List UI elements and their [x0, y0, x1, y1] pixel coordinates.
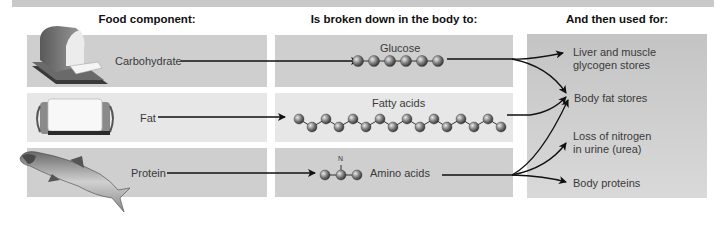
fatty-acid-molecule [294, 114, 506, 132]
amino-acids-output-arrows [442, 100, 568, 182]
fatty-acids-output-arrow [507, 97, 566, 115]
diagram-graphics [0, 0, 726, 225]
amino-acid-molecule [320, 165, 362, 180]
butter-icon [37, 99, 113, 135]
bread-icon [32, 26, 108, 84]
glucose-molecule [353, 56, 444, 67]
glucose-output-arrows [447, 53, 566, 93]
fish-icon [20, 152, 130, 212]
